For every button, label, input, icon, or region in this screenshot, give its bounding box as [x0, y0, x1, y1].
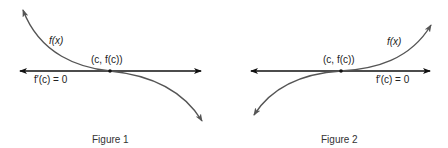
point-c-2 — [339, 69, 343, 73]
curve-1b — [110, 71, 202, 121]
caption-figure-2: Figure 2 — [321, 134, 358, 145]
point-label-2: (c, f(c)) — [323, 54, 355, 65]
caption-figure-1: Figure 1 — [92, 134, 129, 145]
figure-1 — [20, 10, 202, 121]
tangent-label-2: f′(c) = 0 — [376, 74, 409, 85]
curve-label-2: f(x) — [387, 36, 401, 47]
tangent-label-1: f′(c) = 0 — [34, 74, 67, 85]
point-c-1 — [108, 69, 112, 73]
curve-label-1: f(x) — [49, 35, 63, 46]
figure-2 — [251, 25, 431, 115]
point-label-1: (c, f(c)) — [91, 54, 123, 65]
curve-2a — [254, 71, 341, 115]
